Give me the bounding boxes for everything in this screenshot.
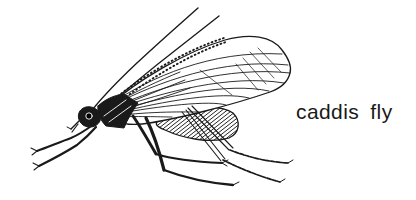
forewing xyxy=(107,36,291,124)
figure-caption: caddis fly xyxy=(296,100,393,123)
figure: caddis fly xyxy=(0,0,416,200)
front-legs xyxy=(31,124,96,170)
eye xyxy=(86,113,92,119)
